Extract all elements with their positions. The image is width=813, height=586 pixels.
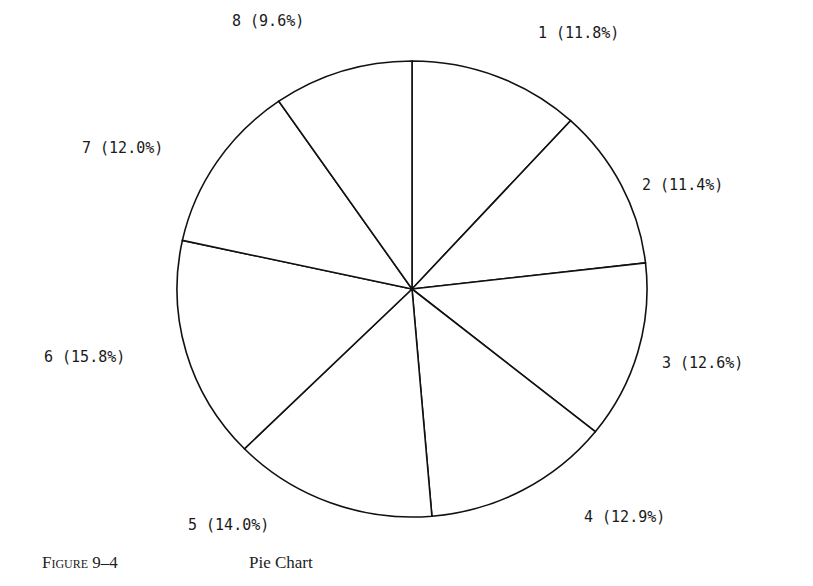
slice-label-3: 3 (12.6%): [662, 354, 743, 372]
figure-title: Pie Chart: [249, 553, 313, 573]
slice-label-8: 8 (9.6%): [232, 12, 304, 30]
slice-label-7: 7 (12.0%): [82, 139, 163, 157]
slice-label-5: 5 (14.0%): [188, 516, 269, 534]
figure-number: Figure 9–4: [42, 553, 118, 573]
slice-label-4: 4 (12.9%): [584, 508, 665, 526]
pie-chart: 1 (11.8%)2 (11.4%)3 (12.6%)4 (12.9%)5 (1…: [0, 0, 813, 586]
pie-slices: [177, 61, 647, 517]
slice-label-1: 1 (11.8%): [538, 24, 619, 42]
slice-label-2: 2 (11.4%): [642, 176, 723, 194]
slice-label-6: 6 (15.8%): [44, 348, 125, 366]
